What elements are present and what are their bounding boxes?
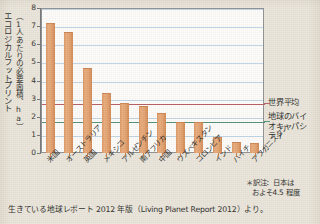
x-tick-mark-オーストラリア: [69, 153, 70, 157]
y-axis-title-sub: （1人あたりの必要面積、ha）: [14, 12, 23, 131]
biocapacity-label-line-3: ティ: [268, 131, 318, 141]
y-tick-label-6: 6: [27, 40, 36, 48]
y-tick-mark-8: [37, 8, 40, 9]
translator-note-line-1: ＊訳注：日本は: [246, 178, 294, 187]
y-tick-label-4: 4: [27, 77, 36, 85]
source-caption: 生きている地球レポート 2012 年版（Living Planet Report…: [8, 205, 268, 214]
y-tick-mark-6: [37, 44, 40, 45]
y-tick-mark-2: [37, 117, 40, 118]
x-tick-mark-英国: [87, 153, 88, 157]
ecological-footprint-figure: 012345678 米国オーストラリア英国メキシコアルゼンチン南アフリカ中国ウズ…: [0, 0, 320, 224]
y-tick-label-0: 0: [27, 149, 36, 157]
y-tick-label-1: 1: [27, 131, 36, 139]
bar-メキシコ: [102, 93, 111, 153]
bar-米国: [46, 23, 55, 154]
y-tick-label-8: 8: [27, 4, 36, 12]
x-tick-mark-インド: [218, 153, 219, 157]
bar-オーストラリア: [64, 32, 73, 153]
x-tick-mark-アフガニスタン: [255, 153, 256, 157]
y-axis-title: エコロジカルフットプリント （1人あたりの必要面積、ha）: [1, 12, 27, 152]
y-tick-label-3: 3: [27, 95, 36, 103]
x-tick-mark-メキシコ: [106, 153, 107, 157]
y-axis-title-main: エコロジカルフットプリント: [2, 12, 11, 112]
y-tick-mark-1: [37, 135, 40, 136]
y-tick-mark-3: [37, 99, 40, 100]
y-tick-label-5: 5: [27, 58, 36, 66]
y-tick-mark-0: [37, 153, 40, 154]
y-tick-mark-5: [37, 62, 40, 63]
y-axis-line: [40, 8, 41, 154]
x-tick-mark-米国: [50, 153, 51, 157]
x-tick-mark-中国: [162, 153, 163, 157]
bars-group: [41, 8, 264, 153]
translator-note-line-2: およそ4.5 程度: [252, 188, 299, 198]
x-tick-mark-南アフリカ: [143, 153, 144, 157]
biocapacity-label: 地球のバイ オキャパシ ティ: [268, 112, 318, 141]
y-tick-mark-7: [37, 26, 40, 27]
world-average-label: 世界平均: [268, 98, 299, 108]
y-tick-label-2: 2: [27, 113, 36, 121]
reference-line-extension-biocapacity: [264, 121, 270, 122]
reference-line-extension-world-average: [264, 103, 270, 104]
y-tick-mark-4: [37, 81, 40, 82]
x-tick-mark-ハイチ: [236, 153, 237, 157]
y-tick-label-7: 7: [27, 22, 36, 30]
translator-note: ＊訳注：日本は およそ4.5 程度: [246, 178, 299, 197]
x-tick-mark-コロンビア: [199, 153, 200, 157]
x-tick-mark-ウズベキスタン: [180, 153, 181, 157]
x-tick-mark-アルゼンチン: [125, 153, 126, 157]
